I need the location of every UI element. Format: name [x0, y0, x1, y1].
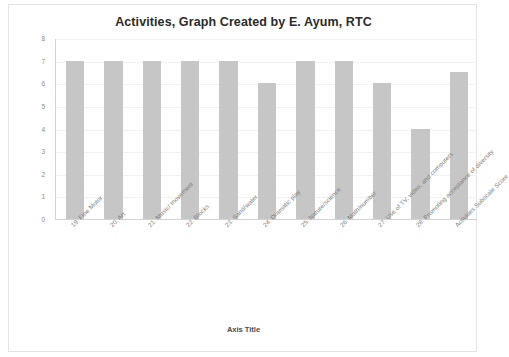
bar — [66, 61, 84, 219]
y-tick-label: 1 — [41, 194, 45, 201]
bar — [373, 83, 391, 219]
y-axis: 876543210 — [9, 39, 51, 220]
chart-title: Activities, Graph Created by E. Ayum, RT… — [9, 15, 478, 29]
bar — [143, 61, 161, 219]
x-axis: 19. Fine Motor20. Art21. Music/ movement… — [55, 220, 477, 330]
y-tick-label: 0 — [41, 217, 45, 224]
y-tick-label: 5 — [41, 104, 45, 111]
bar — [104, 61, 122, 219]
chart-container: Activities, Graph Created by E. Ayum, RT… — [8, 4, 477, 352]
y-tick-label: 6 — [41, 81, 45, 88]
y-tick-label: 2 — [41, 172, 45, 179]
bar — [258, 83, 276, 219]
y-tick-label: 4 — [41, 126, 45, 133]
bar — [219, 61, 237, 219]
y-tick-label: 7 — [41, 58, 45, 65]
y-tick-label: 3 — [41, 149, 45, 156]
bar — [450, 72, 468, 219]
y-tick-label: 8 — [41, 36, 45, 43]
x-axis-title: Axis Title — [9, 325, 478, 334]
